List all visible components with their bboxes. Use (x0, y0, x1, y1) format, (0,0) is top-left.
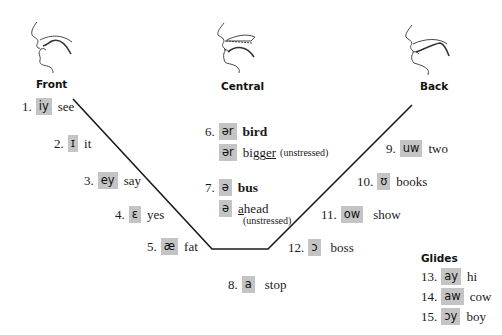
vowel-item-1: 1. iy see (22, 98, 74, 115)
glide-symbol: ay (441, 268, 461, 285)
vowel-example: two (428, 141, 448, 157)
glide-number: 15. (421, 309, 437, 325)
vowel-example: say (124, 173, 141, 189)
glide-example: hi (467, 269, 477, 285)
vowel-example: boss (331, 240, 354, 256)
vowel-item-10: 10. ʊ books (357, 173, 427, 190)
vowel-item-6-unstressed: ər bigger (unstressed) (219, 144, 328, 161)
vowel-symbol: uw (400, 140, 423, 157)
vowel-symbol: ər (219, 123, 237, 140)
vowel-symbol: a (242, 276, 255, 293)
glide-item-14: 14. aw cow (421, 288, 491, 305)
glide-number: 14. (421, 289, 437, 305)
vowel-item-12: 12. ɔ boss (288, 239, 354, 256)
vowel-symbol: ʊ (377, 173, 390, 190)
vowel-item-4: 4. ɛ yes (115, 206, 164, 223)
vowel-number: 8. (228, 277, 238, 293)
vowel-symbol: ɛ (129, 206, 141, 223)
vowel-item-6: 6. ər bird (205, 123, 267, 140)
glide-number: 13. (421, 269, 437, 285)
vowel-item-5: 5. æ fat (147, 238, 198, 255)
front-head-icon (32, 22, 72, 73)
glide-item-15: 15. ɔy boy (421, 308, 486, 325)
vowel-item-8: 8. a stop (228, 276, 286, 293)
vowel-example: bigger (243, 145, 276, 161)
glide-example: boy (466, 309, 486, 325)
vowel-example: it (84, 136, 91, 152)
vowel-example: books (396, 174, 427, 190)
vowel-number: 4. (115, 207, 125, 223)
vowel-number: 3. (84, 173, 94, 189)
vowel-number: 10. (357, 174, 373, 190)
vowel-item-2: 2. ɪ it (54, 135, 91, 152)
vowel-number: 9. (386, 141, 396, 157)
central-header: Central (221, 80, 264, 92)
vowel-symbol: ɪ (68, 135, 78, 152)
glide-example: cow (470, 289, 492, 305)
unstressed-note: (unstressed) (243, 215, 291, 226)
glide-symbol: ɔy (441, 308, 460, 325)
vowel-example: see (58, 99, 75, 115)
vowel-number: 7. (205, 180, 215, 196)
vowel-symbol: ər (219, 144, 237, 161)
vowel-symbol: æ (161, 238, 178, 255)
vowel-symbol: iy (36, 98, 52, 115)
vowel-example: stop (265, 277, 287, 293)
vowel-symbol: ɔ (308, 239, 320, 256)
central-head-icon (218, 23, 255, 73)
unstressed-note: (unstressed) (280, 145, 328, 161)
vowel-number: 12. (288, 240, 304, 256)
vowel-item-9: 9. uw two (386, 140, 448, 157)
vowel-symbol: ə (219, 200, 232, 217)
vowel-item-11: 11. ow show (321, 206, 401, 223)
vowel-example: yes (147, 207, 164, 223)
vowel-symbol: ow (341, 206, 363, 223)
back-header: Back (420, 80, 448, 92)
vowel-number: 1. (22, 99, 32, 115)
glide-item-13: 13. ay hi (421, 268, 477, 285)
back-head-icon (406, 25, 449, 75)
vowel-example: fat (184, 239, 198, 255)
vowel-item-3: 3. ey say (84, 172, 141, 189)
vowel-example: show (373, 207, 400, 223)
vowel-number: 2. (54, 136, 64, 152)
glide-symbol: aw (441, 288, 463, 305)
vowel-symbol: ey (98, 172, 118, 189)
vowel-example: bird (243, 124, 268, 140)
front-header: Front (36, 78, 67, 90)
vowel-example: bus (238, 180, 258, 196)
vowel-number: 5. (147, 239, 157, 255)
vowel-item-7: 7. ə bus (205, 179, 258, 196)
vowel-symbol: ə (219, 179, 232, 196)
glides-header: Glides (421, 252, 458, 264)
vowel-number: 11. (321, 207, 337, 223)
vowel-number: 6. (205, 124, 215, 140)
